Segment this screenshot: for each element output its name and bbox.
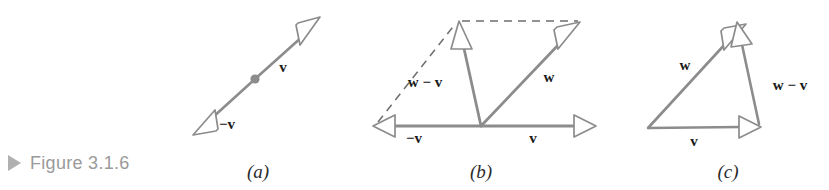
triangle-right-icon	[8, 155, 21, 171]
origin-dot-panel-a	[250, 74, 259, 83]
label-v-panel-b: v	[529, 130, 537, 146]
vector-w-minus-v-arrowhead-panel-b	[451, 21, 472, 49]
label-w-minus-v-panel-c: w − v	[773, 77, 808, 93]
vector-negv-line	[212, 79, 255, 118]
panel-a: v −v (a)	[193, 17, 320, 183]
panel-label-a: (a)	[247, 161, 269, 183]
figure-caption-text: Figure 3.1.6	[30, 153, 130, 174]
figure-caption: Figure 3.1.6	[8, 150, 130, 176]
panel-c: v w w − v (c)	[648, 22, 808, 183]
vector-v-arrowhead	[296, 17, 320, 45]
vector-w-minus-v-line-panel-c	[741, 40, 759, 124]
vector-negv-arrowhead-panel-b	[373, 115, 395, 137]
label-w-minus-v-panel-b: w − v	[408, 74, 443, 90]
dashed-left-side-panel-b	[378, 23, 456, 122]
panel-label-c: (c)	[717, 161, 738, 183]
vector-v-arrowhead-panel-b	[574, 115, 596, 137]
label-w-panel-c: w	[680, 57, 691, 73]
panel-label-b: (b)	[470, 161, 492, 183]
vector-v-panel-a	[255, 17, 320, 79]
vector-negv-arrowhead	[193, 110, 218, 135]
label-w-panel-b: w	[544, 69, 555, 85]
label-v-panel-a: v	[279, 59, 287, 75]
label-v-panel-c: v	[690, 133, 698, 149]
figure-container: v −v (a) −v v w w − v (b)	[0, 0, 829, 190]
panel-b: −v v w w − v (b)	[373, 21, 596, 183]
label-negv-panel-a: −v	[219, 116, 236, 132]
vector-w-line-panel-c	[648, 42, 727, 128]
vector-w-minus-v-line-panel-b	[463, 44, 481, 126]
vector-v-line-panel-c	[648, 127, 740, 128]
label-negv-panel-b: −v	[406, 130, 423, 146]
vector-w-arrowhead-panel-b	[554, 22, 580, 49]
